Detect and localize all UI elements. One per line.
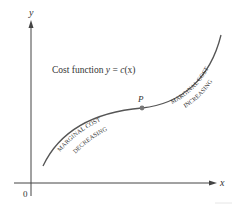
- cost-function-diagram: y x 0 P Cost function y = c(x) MARGINAL …: [0, 0, 235, 206]
- x-axis-arrow-icon: [209, 181, 217, 186]
- curve-title: Cost function y = c(x): [52, 65, 135, 76]
- x-axis: [14, 181, 217, 186]
- y-axis-label: y: [28, 7, 34, 18]
- y-axis-arrow-icon: [29, 20, 34, 28]
- point-label: P: [137, 94, 144, 104]
- x-axis-label: x: [219, 177, 225, 188]
- origin-label: 0: [23, 189, 28, 199]
- inflection-point-p: [140, 106, 145, 111]
- y-axis: [29, 20, 34, 196]
